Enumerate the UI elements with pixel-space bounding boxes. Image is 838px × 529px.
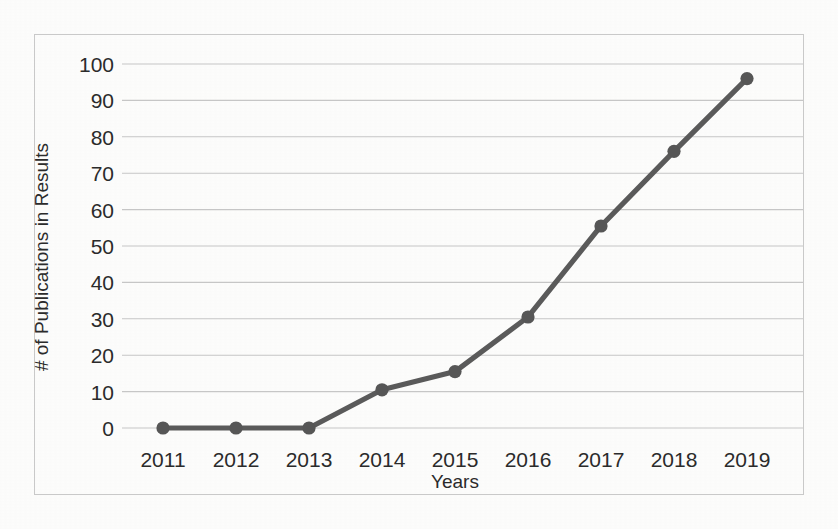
gridlines [122, 64, 803, 428]
x-axis-title: Years [415, 471, 495, 493]
x-axis-tick-label: 2018 [634, 449, 714, 470]
x-axis-tick-label: 2015 [415, 449, 495, 470]
data-point-marker [375, 383, 388, 396]
y-axis-tick-label: 40 [68, 272, 114, 293]
data-point-marker [156, 421, 169, 434]
y-axis-tick-label: 10 [68, 381, 114, 402]
data-point-marker [448, 365, 461, 378]
x-axis-tick-label: 2011 [123, 449, 203, 470]
scanned-page-background: 0102030405060708090100 # of Publications… [0, 0, 838, 529]
x-axis-tick-label: 2016 [488, 449, 568, 470]
y-axis-tick-label: 80 [68, 126, 114, 147]
y-axis-tick-label: 50 [68, 236, 114, 257]
data-point-marker [302, 421, 315, 434]
x-axis-tick-label: 2013 [269, 449, 349, 470]
x-axis-tick-label: 2014 [342, 449, 422, 470]
y-axis-tick-label: 60 [68, 199, 114, 220]
data-point-marker [521, 310, 534, 323]
y-axis-title: # of Publications in Results [31, 107, 53, 407]
data-point-marker [740, 72, 753, 85]
data-point-marker [594, 219, 607, 232]
data-point-marker [667, 145, 680, 158]
y-axis-tick-label: 90 [68, 90, 114, 111]
x-axis-tick-label: 2012 [196, 449, 276, 470]
y-axis-tick-label: 20 [68, 345, 114, 366]
y-axis-tick-label: 70 [68, 163, 114, 184]
data-point-markers [156, 72, 753, 435]
data-point-marker [229, 421, 242, 434]
y-axis-tick-label: 30 [68, 308, 114, 329]
x-axis-tick-label: 2017 [561, 449, 641, 470]
y-axis-tick-label: 100 [68, 54, 114, 75]
y-axis-tick-label: 0 [68, 418, 114, 439]
x-axis-tick-label: 2019 [707, 449, 787, 470]
